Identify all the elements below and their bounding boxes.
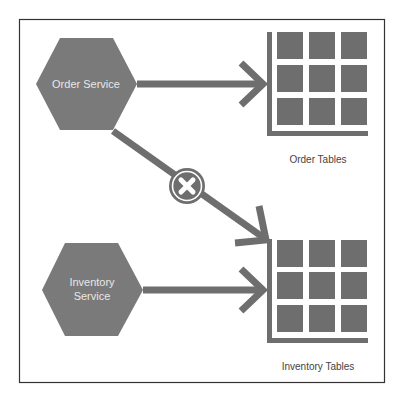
inventory-service-label-line1: Inventory bbox=[69, 276, 115, 288]
order-service-label: Order Service bbox=[52, 78, 120, 90]
x-circle-icon bbox=[169, 168, 205, 204]
order-tables-icon bbox=[267, 32, 368, 136]
inventory-tables-label: Inventory Tables bbox=[282, 361, 355, 372]
order-tables-label: Order Tables bbox=[289, 154, 346, 165]
inventory-tables-icon bbox=[267, 239, 368, 343]
inventory-service-label-line2: Service bbox=[74, 290, 111, 302]
database-per-service-diagram: Order Service Inventory Service Order Ta… bbox=[0, 0, 404, 399]
